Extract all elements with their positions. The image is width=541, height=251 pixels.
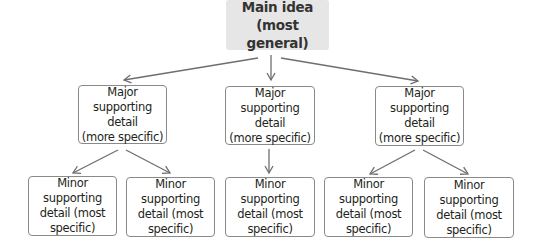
arrow-major3-to-minor-4 [370, 150, 415, 174]
major-detail-label: Major supporting detail (more specific) [376, 86, 463, 146]
minor-detail-box-1: Minor supporting detail (most specific) [28, 176, 117, 236]
minor-detail-label: Minor supporting detail (most specific) [425, 178, 513, 238]
arrow-main-to-major-1 [124, 58, 258, 80]
major-detail-label: Major supporting detail (more specific) [79, 85, 166, 145]
arrow-major3-to-minor-5 [423, 150, 468, 174]
main-idea-box: Main idea (most general) [226, 0, 329, 50]
major-detail-box-3: Major supporting detail (more specific) [375, 86, 464, 146]
minor-detail-label: Minor supporting detail (most specific) [325, 177, 412, 237]
minor-detail-box-3: Minor supporting detail (most specific) [225, 177, 315, 237]
arrow-main-to-major-3 [281, 58, 418, 81]
major-detail-box-1: Major supporting detail (more specific) [78, 85, 167, 144]
minor-detail-box-2: Minor supporting detail (most specific) [126, 177, 215, 237]
minor-detail-box-4: Minor supporting detail (most specific) [324, 177, 413, 237]
main-idea-label: Main idea (most general) [226, 0, 329, 52]
major-detail-box-2: Major supporting detail (more specific) [225, 86, 315, 145]
arrow-major1-to-minor-1 [73, 150, 118, 173]
major-detail-label: Major supporting detail (more specific) [226, 86, 314, 146]
minor-detail-box-5: Minor supporting detail (most specific) [424, 177, 514, 238]
minor-detail-label: Minor supporting detail (most specific) [226, 177, 314, 237]
arrow-major1-to-minor-2 [126, 150, 170, 173]
minor-detail-label: Minor supporting detail (most specific) [29, 176, 116, 236]
minor-detail-label: Minor supporting detail (most specific) [127, 177, 214, 237]
